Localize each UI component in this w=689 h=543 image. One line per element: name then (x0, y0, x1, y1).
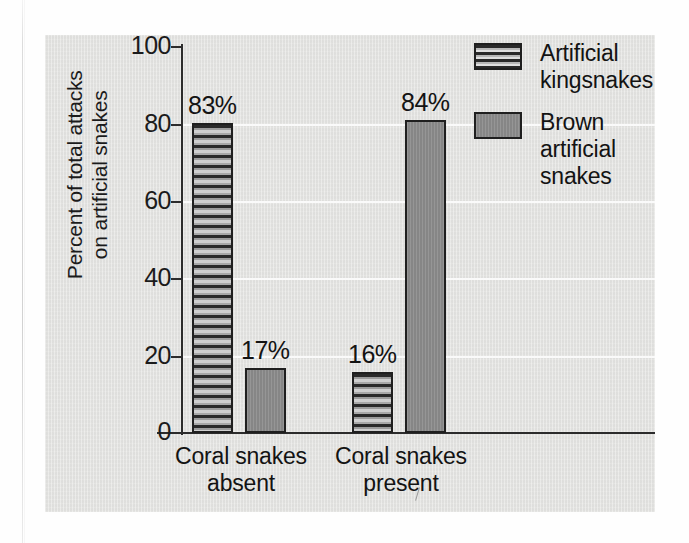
striped-swatch-icon (474, 43, 522, 70)
legend-entry-brown-artificial-snakes[interactable]: Brown artificial snakes (474, 109, 664, 189)
legend-label-artificial-kingsnakes: Artificial kingsnakes (540, 40, 653, 93)
page-gutter-rule (22, 0, 23, 543)
solid-gray-swatch-icon (474, 112, 522, 139)
legend-label-brown-artificial-snakes: Brown artificial snakes (540, 109, 616, 189)
page-gutter-rule-secondary (24, 0, 25, 543)
chart-legend: Artificial kingsnakes Brown artificial s… (474, 40, 664, 205)
page-canvas: 100 80 60 40 20 0 Percent of total attac… (0, 0, 689, 543)
legend-entry-artificial-kingsnakes[interactable]: Artificial kingsnakes (474, 40, 664, 93)
